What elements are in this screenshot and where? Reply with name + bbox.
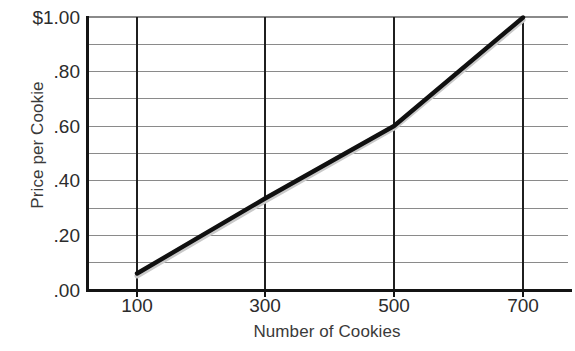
x-tick-label-500: 500 bbox=[359, 296, 429, 315]
y-tick-label-0-00: .00 bbox=[2, 281, 80, 300]
horizontal-gridlines bbox=[86, 44, 568, 262]
y-tick-label-1-00: $1.00 bbox=[2, 8, 80, 27]
x-tick-label-100: 100 bbox=[102, 296, 172, 315]
x-axis-title: Number of Cookies bbox=[86, 322, 568, 342]
chart-figure: $1.00 .80 .60 .40 .20 .00 100 300 500 70… bbox=[0, 0, 575, 351]
y-axis-title: Price per Cookie bbox=[28, 45, 48, 245]
x-tick-label-700: 700 bbox=[488, 296, 558, 315]
x-tick-label-300: 300 bbox=[230, 296, 300, 315]
